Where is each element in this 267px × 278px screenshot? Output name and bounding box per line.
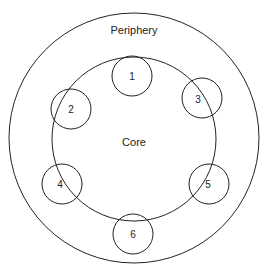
node-3: 3 xyxy=(182,78,222,118)
node-6: 6 xyxy=(113,214,153,254)
node-2: 2 xyxy=(51,89,91,129)
node-4: 4 xyxy=(42,164,82,204)
core-label: Core xyxy=(122,136,146,148)
node-5: 5 xyxy=(189,164,229,204)
node-label: 4 xyxy=(57,179,63,190)
periphery-label: Periphery xyxy=(110,24,158,36)
core-periphery-diagram: Periphery Core 1 2 3 4 5 6 xyxy=(0,0,267,278)
node-label: 1 xyxy=(129,71,135,82)
node-label: 2 xyxy=(68,104,74,115)
node-label: 3 xyxy=(195,94,201,105)
node-1: 1 xyxy=(112,56,152,96)
node-label: 6 xyxy=(130,229,136,240)
node-label: 5 xyxy=(205,179,211,190)
